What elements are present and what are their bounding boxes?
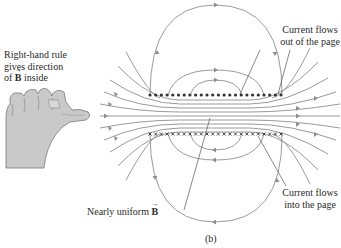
panel-label: (b)	[205, 233, 217, 245]
b-vector-symbol: B	[15, 72, 22, 84]
b-vector-symbol: B	[151, 206, 158, 218]
current-in-label: Current flows into the page	[280, 187, 340, 210]
current-in-cross-row	[149, 133, 283, 136]
current-out-label: Current flows out of the page	[280, 24, 340, 47]
right-hand-rule-label: Right-hand rule gives direction of B ins…	[4, 49, 67, 84]
right-hand-rule-line1: Right-hand rule	[4, 49, 67, 61]
right-hand-rule-line3: of B inside	[4, 72, 67, 84]
right-hand-rule-line2: gives direction	[4, 61, 67, 73]
right-hand-thumb-icon	[6, 88, 90, 168]
nearly-uniform-b-label: Nearly uniform B	[87, 206, 158, 218]
